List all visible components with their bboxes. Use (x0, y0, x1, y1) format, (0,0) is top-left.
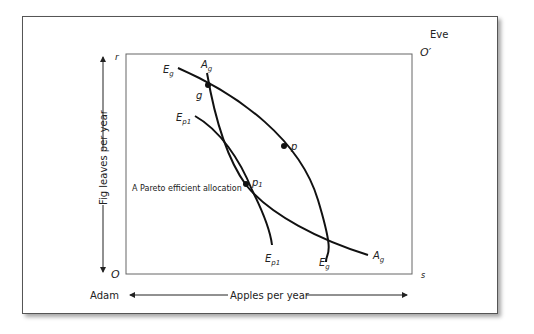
label-ag-top: Ag (200, 59, 213, 73)
label-point-p1: p1 (251, 177, 263, 189)
label-ag-bottom: Ag (372, 250, 385, 264)
pareto-annotation: A Pareto efficient allocation (132, 184, 242, 193)
owner-eve-label: Eve (430, 29, 448, 40)
label-point-g: g (196, 90, 202, 101)
owner-adam-label: Adam (90, 290, 119, 301)
point-p (281, 143, 287, 149)
corner-s-label: s (421, 271, 425, 280)
curve-ag (207, 73, 368, 255)
edgeworth-box (126, 54, 412, 274)
label-eg-top: Eg (163, 64, 174, 78)
label-ep1-top: Ep1 (176, 112, 191, 126)
label-ep1-bottom: Ep1 (265, 253, 280, 267)
point-g (205, 82, 211, 88)
origin-eve-label: O′ (420, 46, 432, 59)
label-eg-bottom: Eg (319, 257, 330, 271)
edgeworth-box-diagram: r s O O′ Eve Adam Apples per year Fig le… (0, 0, 534, 334)
origin-adam-label: O (111, 268, 120, 281)
point-p1 (243, 181, 249, 187)
y-axis-label: Fig leaves per year (98, 109, 109, 205)
corner-r-label: r (115, 52, 120, 62)
label-point-p: p (290, 141, 297, 152)
x-axis-label: Apples per year (230, 290, 310, 301)
